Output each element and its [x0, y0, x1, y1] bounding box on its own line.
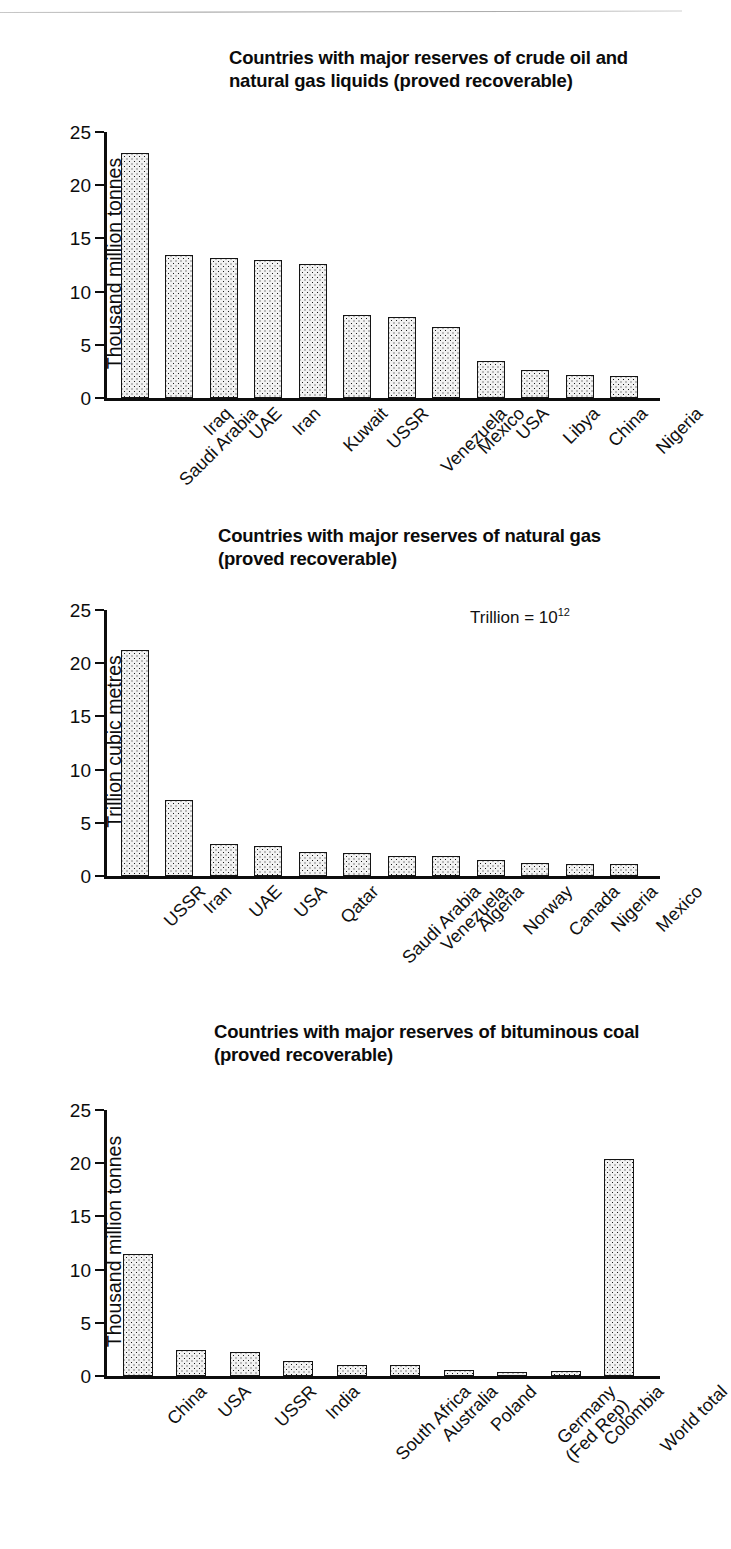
bar — [521, 863, 549, 876]
y-axis-tick-label: 20 — [70, 176, 91, 195]
bar-slot — [165, 132, 193, 398]
y-axis-tick-label: 5 — [80, 335, 91, 354]
y-axis-tick-label: 20 — [70, 1154, 91, 1173]
y-axis-tick — [95, 131, 104, 133]
y-axis-tick-label: 0 — [80, 1367, 91, 1386]
bar — [610, 864, 638, 876]
bar-slot — [477, 132, 505, 398]
bar-slot — [254, 610, 282, 876]
y-axis-tick-label: 0 — [80, 389, 91, 408]
y-axis-tick-label: 20 — [70, 654, 91, 673]
bar — [477, 361, 505, 398]
y-axis-tick — [95, 1375, 104, 1377]
y-axis-tick-label: 10 — [70, 1260, 91, 1279]
bar — [121, 650, 149, 876]
y-axis-tick — [95, 397, 104, 399]
bar-slot — [566, 610, 594, 876]
bar-slot — [610, 132, 638, 398]
bar — [299, 852, 327, 876]
bar-slot — [210, 132, 238, 398]
bar — [343, 853, 371, 876]
bar-slot — [121, 610, 149, 876]
bar-group — [107, 132, 661, 398]
x-axis-label: USSR — [272, 1382, 321, 1431]
x-axis-label: Iran — [200, 882, 236, 918]
y-axis-tick — [95, 875, 104, 877]
bar-slot — [604, 1110, 634, 1376]
x-axis-labels: ChinaUSAUSSRIndiaSouth AfricaAustraliaPo… — [107, 1376, 661, 1536]
bar-slot — [444, 1110, 474, 1376]
y-axis-tick-label: 5 — [80, 1313, 91, 1332]
y-axis-tick — [95, 715, 104, 717]
x-axis-label: USA — [291, 882, 331, 922]
bar — [254, 846, 282, 876]
bar-slot — [610, 610, 638, 876]
bar-slot — [343, 610, 371, 876]
y-axis-tick-label: 15 — [70, 707, 91, 726]
bar-slot — [254, 132, 282, 398]
bar-slot — [432, 132, 460, 398]
bar-slot — [390, 1110, 420, 1376]
y-axis-tick — [95, 662, 104, 664]
bar — [610, 376, 638, 398]
x-axis-label: World total — [657, 1382, 731, 1456]
y-axis-tick — [95, 1269, 104, 1271]
chart-title: Countries with major reserves of crude o… — [229, 46, 659, 93]
bar-slot — [210, 610, 238, 876]
y-axis-tick — [95, 822, 104, 824]
bar-slot — [337, 1110, 367, 1376]
chart-title: Countries with major reserves of bitumin… — [214, 1020, 654, 1067]
bar-slot — [299, 132, 327, 398]
y-axis-tick-label: 25 — [70, 1101, 91, 1120]
bar-slot — [432, 610, 460, 876]
bar-slot — [477, 610, 505, 876]
x-axis-label: India — [322, 1382, 363, 1423]
y-axis-tick — [95, 609, 104, 611]
chart-bituminous-coal: Countries with major reserves of bitumin… — [0, 1000, 682, 1520]
bar — [165, 255, 193, 398]
bar — [390, 1365, 420, 1376]
bar — [210, 258, 238, 398]
x-axis-label: Nigeria — [652, 404, 706, 458]
y-axis-tick-label: 15 — [70, 229, 91, 248]
y-axis-tick — [95, 1215, 104, 1217]
x-axis-label: USSR — [383, 404, 432, 453]
bar — [432, 856, 460, 876]
bar-slot — [343, 132, 371, 398]
bar-slot — [551, 1110, 581, 1376]
y-axis-tick-label: 10 — [70, 760, 91, 779]
bar — [521, 370, 549, 398]
x-axis-label: China — [605, 404, 652, 451]
y-axis-tick — [95, 344, 104, 346]
y-axis-tick-label: 5 — [80, 813, 91, 832]
bar-slot — [388, 132, 416, 398]
bar — [566, 375, 594, 398]
y-axis-tick — [95, 1322, 104, 1324]
bar-group — [107, 610, 661, 876]
y-axis-tick-label: 10 — [70, 282, 91, 301]
bar-slot — [176, 1110, 206, 1376]
bar — [388, 856, 416, 876]
bar-slot — [521, 132, 549, 398]
x-axis-label: China — [164, 1382, 211, 1429]
y-axis-tick — [95, 1162, 104, 1164]
bar — [388, 317, 416, 398]
bar-slot — [230, 1110, 260, 1376]
bar — [230, 1352, 260, 1376]
y-axis-tick-label: 0 — [80, 867, 91, 886]
bar-slot — [566, 132, 594, 398]
bar — [210, 844, 238, 876]
bar — [566, 864, 594, 876]
bar — [432, 327, 460, 398]
x-axis-label: Mexico — [652, 882, 706, 936]
y-axis-tick — [95, 184, 104, 186]
bar — [477, 860, 505, 876]
plot-area: Thousand million tonnes 0510152025 China… — [104, 1110, 660, 1376]
bar — [176, 1350, 206, 1376]
bar — [604, 1159, 634, 1376]
bar-slot — [121, 132, 149, 398]
y-axis-tick — [95, 1109, 104, 1111]
page-top-rule — [0, 11, 682, 13]
y-axis-tick — [95, 769, 104, 771]
